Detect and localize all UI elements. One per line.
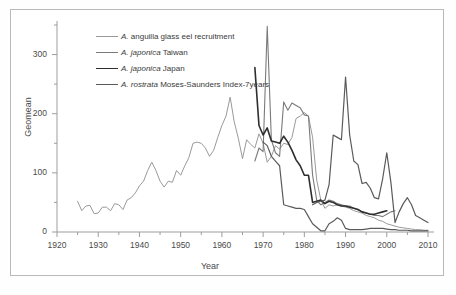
legend-swatch-line	[96, 68, 118, 69]
legend-label-rest: Moses-Saunders Index-7years	[158, 80, 269, 89]
legend-label-rest: anguilla glass eel recruitment	[129, 32, 235, 41]
legend-label: A. japonica Japan	[121, 64, 185, 73]
series-line-0	[78, 97, 428, 230]
figure: Geomean Year 3002001000 1920193019401950…	[0, 0, 456, 295]
y-tick-label: 200	[21, 108, 47, 118]
chart-legend: A. anguilla glass eel recruitmentA. japo…	[96, 28, 269, 92]
legend-label: A. rostrata Moses-Saunders Index-7years	[121, 80, 269, 89]
legend-label-species: A. japonica	[121, 64, 161, 73]
legend-item: A. anguilla glass eel recruitment	[96, 28, 269, 44]
x-tick-label: 1980	[287, 240, 321, 250]
x-tick-label: 1970	[246, 240, 280, 250]
x-tick-label: 1930	[81, 240, 115, 250]
y-tick-label: 100	[21, 167, 47, 177]
legend-item: A. japonica Japan	[96, 60, 269, 76]
legend-label: A. anguilla glass eel recruitment	[121, 32, 234, 41]
x-tick-label: 2010	[411, 240, 445, 250]
legend-item: A. japonica Taiwan	[96, 44, 269, 60]
x-tick-label: 1950	[164, 240, 198, 250]
x-tick-label: 1920	[40, 240, 74, 250]
legend-swatch-line	[96, 36, 118, 37]
series-line-3	[263, 142, 428, 231]
x-tick-label: 1990	[329, 240, 363, 250]
legend-label-species: A. japonica	[121, 48, 161, 57]
legend-label-species: A.	[121, 32, 129, 41]
x-tick-label: 1960	[205, 240, 239, 250]
legend-swatch-line	[96, 52, 118, 53]
legend-label-rest: Taiwan	[161, 48, 188, 57]
legend-label: A. japonica Taiwan	[121, 48, 188, 57]
y-tick-label: 300	[21, 49, 47, 59]
legend-item: A. rostrata Moses-Saunders Index-7years	[96, 76, 269, 92]
legend-label-rest: Japan	[161, 64, 185, 73]
series-line-1	[255, 26, 395, 216]
x-axis-title: Year	[150, 261, 270, 271]
x-tick-label: 2000	[370, 240, 404, 250]
series-line-2	[255, 68, 387, 215]
x-tick-label: 1940	[122, 240, 156, 250]
legend-swatch-line	[96, 84, 118, 85]
y-tick-label: 0	[21, 226, 47, 236]
legend-label-species: A. rostrata	[121, 80, 158, 89]
